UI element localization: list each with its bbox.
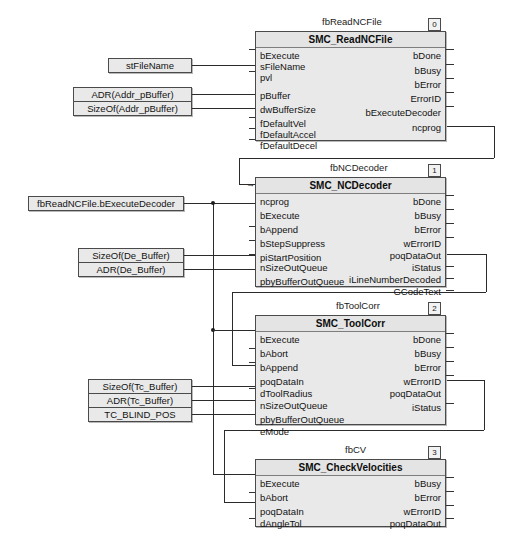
fb0-input-pvl[interactable]: pvl [260, 72, 272, 83]
fb0-input-fdefaultvel[interactable]: fDefaultVel [260, 118, 306, 129]
fb2-input-bexecute[interactable]: bExecute [260, 334, 300, 345]
fb3-output-werrorid[interactable]: wErrorID [404, 506, 441, 517]
wire-execute-to-fb2 [213, 330, 255, 331]
wire-fb2-poqdataout [446, 380, 484, 381]
fb0-output-bdone[interactable]: bDone [413, 50, 441, 61]
fb0-input-fdefaultaccel[interactable]: fDefaultAccel [260, 129, 316, 140]
fb3-type-name: SMC_CheckVelocities [256, 460, 445, 476]
wire-ncprog-into-fb1 [239, 158, 240, 184]
fb0-output-berror[interactable]: bError [415, 79, 441, 90]
wire-adr-addr-pbuffer [192, 94, 255, 95]
wire-fb2-poqdataout-stub [224, 502, 255, 503]
fbd-canvas: stFileName ADR(Addr_pBuffer) SizeOf(Addr… [0, 0, 505, 535]
fb1-output-bbusy[interactable]: bBusy [415, 210, 441, 221]
fb2-badge: 2 [428, 302, 441, 315]
fb0-input-sfilename[interactable]: sFileName [260, 61, 305, 72]
fb2-output-bdone[interactable]: bDone [413, 334, 441, 345]
fb3-input-dangletol[interactable]: dAngleTol [260, 518, 302, 529]
variable-box-fbreadncfile-bexecutedecoder[interactable]: fbReadNCFile.bExecuteDecoder [28, 196, 184, 211]
function-block-smc-toolcorr[interactable]: SMC_ToolCorr bExecute bAbort bAppend poq… [255, 315, 446, 425]
fb3-instance-name: fbCV [345, 444, 366, 455]
fb3-output-poqdataout[interactable]: poqDataOut [390, 518, 441, 529]
function-block-smc-ncdecoder[interactable]: SMC_NCDecoder ncprog bExecute bAppend bS… [255, 177, 446, 287]
function-block-smc-readncfile[interactable]: SMC_ReadNCFile bExecute sFileName pvl pB… [255, 31, 446, 141]
fb3-input-babort[interactable]: bAbort [260, 492, 288, 503]
wire-fb2-poqdataout-into-fb3 [224, 430, 225, 502]
fb3-input-bexecute[interactable]: bExecute [260, 478, 300, 489]
fb2-instance-name: fbToolCorr [336, 300, 380, 311]
function-block-smc-checkvelocities[interactable]: SMC_CheckVelocities bExecute bAbort poqD… [255, 459, 446, 527]
fb2-input-bappend[interactable]: bAppend [260, 362, 298, 373]
fb0-input-dwbuffersize[interactable]: dwBufferSize [260, 104, 316, 115]
fb1-output-poqdataout[interactable]: poqDataOut [390, 250, 441, 261]
variable-box-sizeof-tc-buffer[interactable]: SizeOf(Tc_Buffer) [88, 379, 192, 394]
fb1-input-pbybufferoutqueue[interactable]: pbyBufferOutQueue [260, 276, 344, 287]
wire-fb1-poqdataout-down [486, 254, 487, 292]
wire-sizeof-tc-buffer [192, 386, 255, 387]
variable-box-stfilename[interactable]: stFileName [108, 58, 192, 73]
fb1-input-bappend[interactable]: bAppend [260, 224, 298, 235]
wire-junction-fb1-execute [211, 201, 215, 205]
wire-fb1-poqdataout-stub [232, 365, 255, 366]
fb3-output-bbusy[interactable]: bBusy [415, 478, 441, 489]
fb1-input-ncprog[interactable]: ncprog [260, 196, 289, 207]
wire-ncprog-back [239, 158, 494, 159]
variable-box-sizeof-de-buffer[interactable]: SizeOf(De_Buffer) [78, 248, 184, 263]
fb2-output-bbusy[interactable]: bBusy [415, 348, 441, 359]
fb0-output-bexecutedecoder[interactable]: bExecuteDecoder [365, 107, 441, 118]
fb2-input-nsizeoutqueue[interactable]: nSizeOutQueue [260, 400, 328, 411]
fb2-input-emode[interactable]: eMode [260, 426, 289, 437]
fb3-output-berror[interactable]: bError [415, 492, 441, 503]
fb2-output-berror[interactable]: bError [415, 362, 441, 373]
fb1-output-berror[interactable]: bError [415, 224, 441, 235]
wire-execute-to-fb3 [213, 474, 255, 475]
fb0-instance-name: fbReadNCFile [322, 16, 382, 27]
fb2-output-istatus[interactable]: iStatus [412, 402, 441, 413]
wire-adr-tc-buffer [192, 400, 255, 401]
fb1-input-bstepsuppress[interactable]: bStepSuppress [260, 238, 325, 249]
wire-sizeof-de-buffer [184, 255, 255, 256]
wire-fb2-poqdataout-down [484, 380, 485, 430]
wire-tc-blind-pos [192, 414, 255, 415]
wire-adr-de-buffer [184, 269, 255, 270]
fb1-input-bexecute[interactable]: bExecute [260, 210, 300, 221]
variable-box-tc-blind-pos[interactable]: TC_BLIND_POS [88, 407, 192, 422]
fb0-output-bbusy[interactable]: bBusy [415, 65, 441, 76]
fb0-input-fdefaultdecel[interactable]: fDefaultDecel [260, 140, 317, 151]
fb2-input-dtoolradius[interactable]: dToolRadius [260, 388, 312, 399]
wire-sizeof-addr-pbuffer [192, 108, 255, 109]
fb0-output-ncprog[interactable]: ncprog [412, 122, 441, 133]
variable-box-adr-tc-buffer[interactable]: ADR(Tc_Buffer) [88, 393, 192, 408]
fb1-type-name: SMC_NCDecoder [256, 178, 445, 194]
wire-fb1-poqdataout-back [232, 292, 486, 293]
fb0-input-pbuffer[interactable]: pBuffer [260, 90, 290, 101]
fb2-input-pbybufferoutqueue[interactable]: pbyBufferOutQueue [260, 414, 344, 425]
fb1-output-bdone[interactable]: bDone [413, 196, 441, 207]
fb2-type-name: SMC_ToolCorr [256, 316, 445, 332]
wire-fb1-poqdataout [446, 254, 486, 255]
variable-box-adr-de-buffer[interactable]: ADR(De_Buffer) [78, 262, 184, 277]
fb3-input-poqdatain[interactable]: poqDataIn [260, 506, 304, 517]
variable-box-adr-addr-pbuffer[interactable]: ADR(Addr_pBuffer) [73, 87, 192, 102]
wire-stfilename [192, 65, 255, 66]
wire-bexecutedecoder [184, 203, 255, 204]
fb1-output-ilinenumberdecoded[interactable]: iLineNumberDecoded [349, 274, 441, 285]
fb2-input-poqdatain[interactable]: poqDataIn [260, 376, 304, 387]
fb0-type-name: SMC_ReadNCFile [256, 32, 445, 48]
fb0-badge: 0 [428, 18, 441, 31]
fb1-input-nsizeoutqueue[interactable]: nSizeOutQueue [260, 262, 328, 273]
fb1-output-werrorid[interactable]: wErrorID [404, 238, 441, 249]
wire-fb1-poqdataout-into-fb2 [232, 292, 233, 365]
fb0-output-errorid[interactable]: ErrorID [410, 93, 441, 104]
fb2-output-werrorid[interactable]: wErrorID [404, 376, 441, 387]
wire-ncprog-down [494, 126, 495, 158]
fb2-output-poqdataout[interactable]: poqDataOut [390, 388, 441, 399]
fb0-input-bexecute[interactable]: bExecute [260, 50, 300, 61]
fb3-badge: 3 [428, 446, 441, 459]
fb1-instance-name: fbNCDecoder [330, 162, 388, 173]
fb1-output-istatus[interactable]: iStatus [412, 262, 441, 273]
fb2-input-babort[interactable]: bAbort [260, 348, 288, 359]
fb1-badge: 1 [428, 164, 441, 177]
fb1-output-gcodetext[interactable]: GCodeText [393, 286, 441, 297]
variable-box-sizeof-addr-pbuffer[interactable]: SizeOf(Addr_pBuffer) [73, 101, 192, 116]
